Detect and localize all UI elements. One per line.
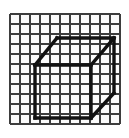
grid-cell-field	[10, 14, 120, 124]
cube-on-grid-figure	[0, 0, 129, 138]
graph-paper-grid	[10, 14, 120, 124]
figure-canvas	[0, 0, 129, 138]
